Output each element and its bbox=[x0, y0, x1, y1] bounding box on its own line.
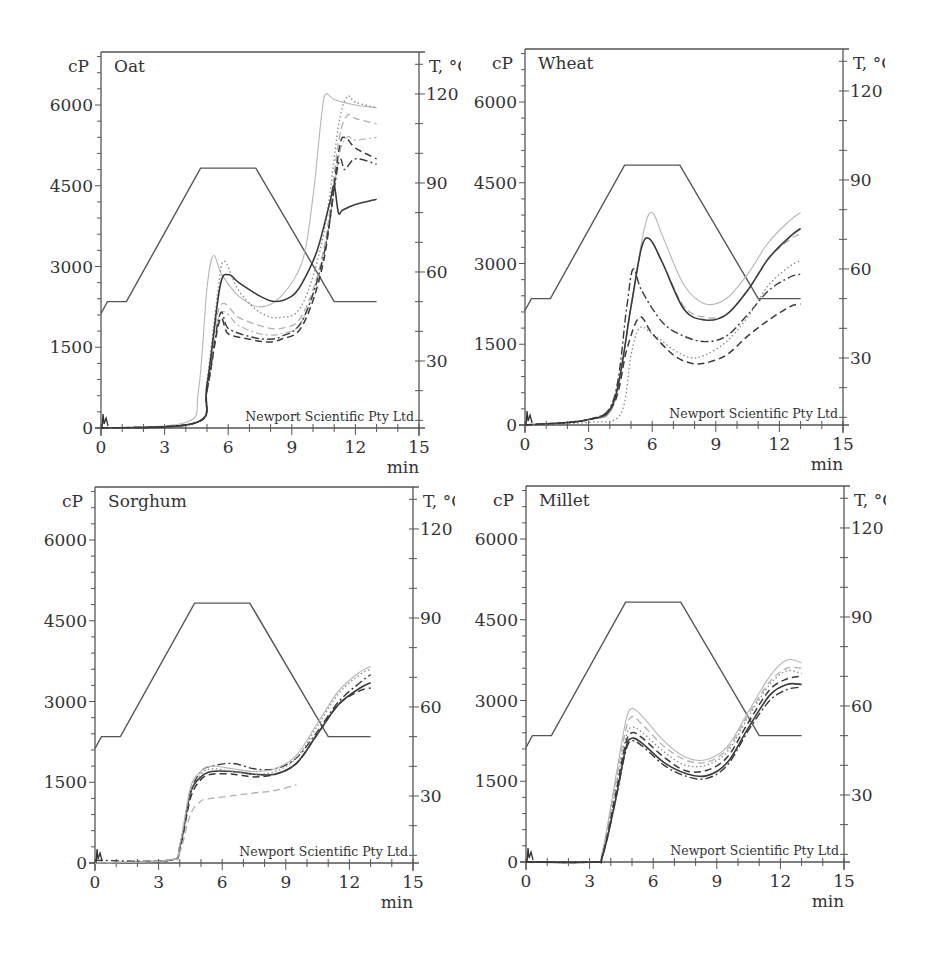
y-right-tick-label: 90 bbox=[420, 608, 442, 628]
panel-oat: 01500300045006000cP306090120T, °C0369121… bbox=[41, 12, 461, 486]
x-tick-label: 3 bbox=[584, 871, 595, 891]
y-left-tick-label: 3000 bbox=[475, 691, 518, 711]
x-tick-label: 3 bbox=[153, 872, 164, 892]
y-right-tick-label: 60 bbox=[851, 696, 873, 716]
x-tick-label: 0 bbox=[521, 871, 532, 891]
viscosity-series-line bbox=[525, 261, 801, 425]
y-left-tick-label: 6000 bbox=[44, 530, 87, 550]
viscosity-series-line bbox=[525, 212, 801, 425]
y-left-tick-label: 6000 bbox=[474, 92, 517, 112]
temperature-profile-line bbox=[95, 603, 371, 748]
viscosity-series-line bbox=[526, 676, 802, 863]
y-left-tick-label: 4500 bbox=[475, 610, 518, 630]
y-right-tick-label: 30 bbox=[426, 351, 448, 371]
panel-wheat: 01500300045006000cP306090120T, °C0369121… bbox=[465, 9, 885, 483]
y-right-tick-label: 30 bbox=[850, 348, 872, 368]
left-axis-label: cP bbox=[68, 56, 89, 76]
y-right-tick-label: 90 bbox=[426, 173, 448, 193]
y-left-tick-label: 4500 bbox=[50, 176, 93, 196]
oat-chart: 01500300045006000cP306090120T, °C0369121… bbox=[41, 12, 461, 482]
x-axis-label: min bbox=[812, 891, 845, 911]
right-axis-label: T, °C bbox=[429, 56, 461, 76]
right-axis-label: T, °C bbox=[423, 491, 455, 511]
y-right-tick-label: 120 bbox=[851, 518, 883, 538]
panel-title: Wheat bbox=[538, 53, 594, 73]
panel-title: Oat bbox=[114, 56, 145, 76]
baseline-noise bbox=[526, 411, 532, 425]
viscosity-series-line bbox=[101, 159, 377, 428]
watermark-text: Newport Scientific Pty Ltd bbox=[670, 843, 839, 858]
y-right-tick-label: 60 bbox=[426, 262, 448, 282]
left-axis-label: cP bbox=[62, 491, 83, 511]
y-right-tick-label: 120 bbox=[850, 81, 882, 101]
y-left-tick-label: 1500 bbox=[474, 334, 517, 354]
y-left-tick-label: 6000 bbox=[50, 95, 93, 115]
viscosity-series-line bbox=[526, 659, 802, 862]
x-tick-label: 6 bbox=[648, 871, 659, 891]
viscosity-series-line bbox=[526, 670, 802, 862]
y-right-tick-label: 120 bbox=[426, 84, 458, 104]
x-tick-label: 12 bbox=[339, 872, 361, 892]
panel-title: Millet bbox=[539, 490, 590, 510]
panel-title: Sorghum bbox=[108, 491, 187, 511]
x-tick-label: 12 bbox=[770, 871, 792, 891]
panel-millet: 01500300045006000cP306090120T, °C0369121… bbox=[466, 446, 886, 920]
y-left-tick-label: 6000 bbox=[475, 529, 518, 549]
watermark-text: Newport Scientific Pty Ltd bbox=[669, 406, 838, 421]
viscosity-series-line bbox=[525, 229, 801, 426]
x-tick-label: 9 bbox=[711, 871, 722, 891]
y-left-tick-label: 0 bbox=[507, 852, 518, 872]
left-axis-label: cP bbox=[492, 53, 513, 73]
watermark-text: Newport Scientific Pty Ltd bbox=[239, 844, 408, 859]
y-left-tick-label: 3000 bbox=[50, 257, 93, 277]
y-left-tick-label: 0 bbox=[506, 415, 517, 435]
temperature-profile-line bbox=[526, 602, 802, 747]
viscosity-series-line bbox=[95, 667, 371, 864]
baseline-noise bbox=[527, 848, 533, 862]
panel-sorghum: 01500300045006000cP306090120T, °C0369121… bbox=[35, 447, 455, 921]
x-tick-label: 6 bbox=[217, 872, 228, 892]
y-left-tick-label: 4500 bbox=[474, 173, 517, 193]
viscosity-series-line bbox=[526, 684, 802, 863]
x-tick-label: 0 bbox=[90, 872, 101, 892]
y-left-tick-label: 3000 bbox=[474, 254, 517, 274]
viscosity-series-line bbox=[95, 688, 371, 863]
y-left-tick-label: 1500 bbox=[50, 337, 93, 357]
y-left-tick-label: 0 bbox=[76, 853, 87, 873]
right-axis-label: T, °C bbox=[853, 53, 885, 73]
viscosity-series-line bbox=[95, 675, 371, 862]
viscosity-series-line bbox=[101, 186, 377, 428]
viscosity-series-line bbox=[526, 687, 802, 863]
watermark-text: Newport Scientific Pty Ltd bbox=[245, 409, 414, 424]
sorghum-chart: 01500300045006000cP306090120T, °C0369121… bbox=[35, 447, 455, 917]
viscosity-series-line bbox=[95, 683, 371, 863]
y-right-tick-label: 30 bbox=[420, 786, 442, 806]
viscosity-series-line bbox=[101, 96, 377, 428]
viscosity-series-line bbox=[101, 114, 377, 428]
viscosity-series-line bbox=[101, 94, 377, 428]
y-left-tick-label: 3000 bbox=[44, 692, 87, 712]
y-left-tick-label: 0 bbox=[82, 418, 93, 438]
y-right-tick-label: 90 bbox=[850, 170, 872, 190]
y-left-tick-label: 1500 bbox=[475, 771, 518, 791]
x-tick-label: 9 bbox=[280, 872, 291, 892]
x-tick-label: 15 bbox=[833, 871, 855, 891]
y-right-tick-label: 120 bbox=[420, 519, 452, 539]
millet-chart: 01500300045006000cP306090120T, °C0369121… bbox=[466, 446, 886, 916]
y-left-tick-label: 1500 bbox=[44, 772, 87, 792]
y-right-tick-label: 90 bbox=[851, 607, 873, 627]
y-left-tick-label: 4500 bbox=[44, 611, 87, 631]
y-right-tick-label: 30 bbox=[851, 785, 873, 805]
x-tick-label: 15 bbox=[402, 872, 424, 892]
baseline-noise bbox=[102, 414, 108, 428]
left-axis-label: cP bbox=[493, 490, 514, 510]
viscosity-series-line bbox=[525, 269, 801, 425]
y-right-tick-label: 60 bbox=[420, 697, 442, 717]
right-axis-label: T, °C bbox=[854, 490, 886, 510]
wheat-chart: 01500300045006000cP306090120T, °C0369121… bbox=[465, 9, 885, 479]
x-axis-label: min bbox=[381, 892, 414, 912]
viscosity-series-line bbox=[95, 669, 371, 863]
y-right-tick-label: 60 bbox=[850, 259, 872, 279]
